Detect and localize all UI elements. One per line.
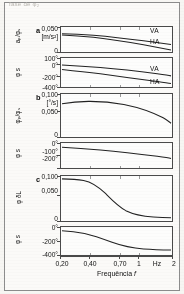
panel-a: a 0,050 [m/s²] 0 aₚ/φₛ VA HA [0, 24, 184, 90]
panel-a-amp-axis-title: aₚ/φₛ [14, 21, 22, 51]
panel-c-phase-plot [60, 226, 173, 256]
panel-c-phase-tick-1: -200° [42, 238, 58, 245]
panel-a-phase-tick-0: 100° [44, 55, 58, 62]
panel-c-amplitude-plot [60, 175, 173, 222]
panel-b-phase-curve [61, 143, 172, 168]
panel-c-amp-tick-0: 0,100 [41, 173, 58, 180]
panel-a-letter: a [36, 26, 40, 35]
panel-b-amp-unit: [°/s] [47, 99, 58, 106]
panel-a-phase-tick-2: -200° [42, 74, 58, 81]
x-tick-label-3: 1 [137, 260, 141, 267]
curve-b-amplitude [62, 101, 171, 123]
x-tick-label-1: 0,40 [83, 260, 96, 267]
x-axis-title-symbol: f [134, 270, 136, 277]
panel-a-phase-axis-title: φ s [14, 62, 21, 84]
panel-c-phase-axis-title: φ s [14, 229, 21, 251]
curve-c-amplitude [62, 179, 171, 218]
panel-a-amp-label-ha: HA [150, 38, 160, 45]
panel-c-letter: c [36, 175, 40, 184]
clipped-caption-text: fase de φ₂ [9, 0, 129, 11]
x-tick-label-4: 2 [172, 260, 176, 267]
panel-c-amp-tick-1: 0,050 [41, 187, 58, 194]
panel-b-letter: b [36, 93, 41, 102]
panel-b: b 0,100 [°/s] 0,050 0 φₚ/φₛ 0° - [0, 90, 184, 170]
panel-b-amplitude-curve [61, 94, 172, 137]
panel-c-amplitude-curve [61, 176, 172, 221]
panel-b-phase-tick-1: -100° [42, 148, 58, 155]
panel-b-amplitude-plot [60, 93, 173, 138]
panel-c: c 0,100 0,050 0 φ δL 0° -200° [0, 172, 184, 256]
panel-b-phase-axis-title: φ s [14, 143, 21, 165]
curve-b-phase [62, 147, 171, 158]
panel-a-phase-label-ha: HA [150, 78, 160, 85]
x-axis-line [60, 256, 173, 257]
x-tick-label-0: 0,20 [55, 260, 68, 267]
panel-b-amp-axis-title: φₚ/φₛ [14, 102, 22, 130]
panel-b-phase-tick-2: -200° [42, 155, 58, 162]
panel-b-phase-plot [60, 142, 173, 169]
x-tick-label-2: 0,70 [113, 260, 126, 267]
x-axis-title: Frequência f [60, 270, 173, 277]
x-axis: 0,20 0,40 0,70 1 Hz 2 Frequência f [0, 256, 184, 294]
panel-a-amp-tick-0: 0,050 [41, 25, 58, 32]
panel-b-amp-tick-1: 0,050 [41, 108, 58, 115]
panel-c-amp-axis-title: φ δL [15, 184, 22, 212]
panel-a-phase-label-va: VA [150, 65, 159, 72]
x-unit-label: Hz [153, 260, 161, 267]
curve-c-phase [62, 231, 171, 250]
panel-b-amp-tick-0: 0,100 [41, 91, 58, 98]
x-axis-title-text: Frequência [97, 270, 134, 277]
panel-a-amp-label-va: VA [150, 27, 159, 34]
panel-a-amp-unit: [m/s²] [42, 33, 58, 40]
figure-scan: fase de φ₂ a 0,050 [m/s²] 0 aₚ/φₛ VA HA [0, 0, 184, 294]
panel-c-phase-curve [61, 227, 172, 255]
